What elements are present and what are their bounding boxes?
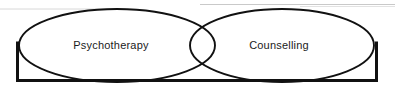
venn-diagram: Psychotherapy Counselling <box>0 0 395 95</box>
label-counselling: Counselling <box>249 39 309 51</box>
label-psychotherapy: Psychotherapy <box>73 39 149 51</box>
venn-diagram-canvas: Psychotherapy Counselling <box>0 0 395 95</box>
